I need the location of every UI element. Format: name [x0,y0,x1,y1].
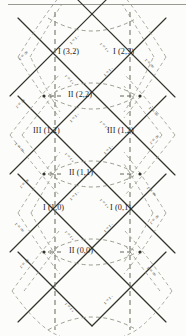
bifurcation-point [138,250,141,253]
constant-r-curve [124,291,172,336]
constant-r-curve [10,74,60,135]
constant-r-curve [124,135,175,196]
penrose-diagram-figure: I (3,2) I (2,3) II (2,2) III (1,2) III (… [0,0,186,336]
constant-r-curve [31,58,60,112]
penrose-diagram-canvas [0,0,186,336]
diagonal-line [18,252,92,326]
constant-r-curve [22,86,60,135]
diagonal-line [10,96,166,252]
constant-r-curve [18,0,60,57]
diagonal-line [18,96,175,253]
constant-r-curve [12,291,60,336]
constant-r-curve [124,58,153,112]
diagonal-line [92,252,166,326]
bifurcation-point [42,94,45,97]
constant-r-curve [10,135,60,196]
singularity-arc [48,161,137,174]
constant-r-curve [18,152,60,213]
constant-r-curve [12,230,60,291]
constant-r-curve [18,213,60,274]
region-connector-dashes [50,96,134,252]
singularity-arc [48,239,137,252]
diagonal-line [10,18,166,174]
bifurcation-point [138,172,141,175]
singularity-arc [48,317,137,330]
singularity-arc [48,252,137,265]
bifurcation-point [138,94,141,97]
singularity-arc [48,174,137,187]
constant-r-curve [18,57,60,118]
constant-r-curve [124,230,172,291]
constant-r-curve [124,74,175,135]
diagonal-line [60,0,175,97]
constant-r-curves [10,0,175,336]
bifurcation-point [42,172,45,175]
singularity-arc [48,18,137,31]
diagonal-line [18,18,175,175]
bifurcation-point [42,250,45,253]
singularity-arc [48,96,137,109]
singularity-arc [48,83,137,96]
diagonal-line [10,0,124,96]
